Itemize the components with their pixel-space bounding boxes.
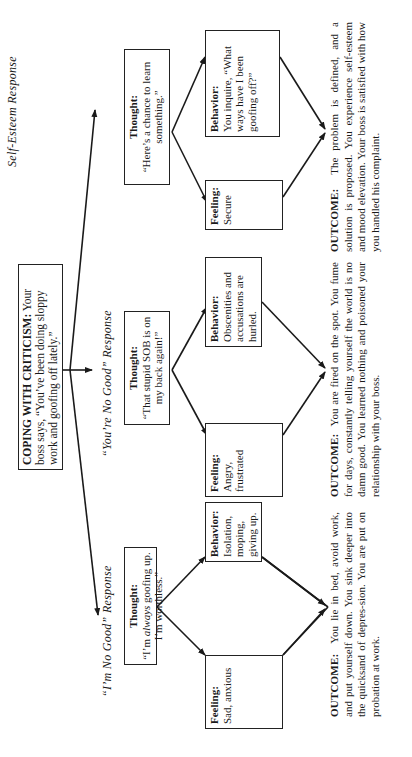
behavior-text: You inquire, “What ways have I been goof… [221, 46, 258, 132]
thought-title: Thought: [127, 584, 139, 628]
outcome-self-esteem: OUTCOME: The problem is defined, and a s… [328, 22, 382, 252]
thought-box-self-esteem: Thought: “Here’s a chance to learn somet… [124, 49, 170, 185]
feeling-title: Feeling: [208, 686, 220, 724]
behavior-text: Obscenities and accusations are hurled. [221, 272, 258, 342]
feeling-box-im-no-good: Feeling: Sad, anxious [205, 655, 283, 729]
thought-title: Thought: [127, 346, 139, 390]
feeling-text: Secure [221, 195, 233, 225]
header-title: COPING WITH CRITICISM: [21, 314, 33, 465]
behavior-title: Behavior: [208, 86, 220, 132]
thought-text: “Here’s a chance to learn something.” [140, 62, 165, 173]
behavior-title: Behavior: [208, 296, 220, 342]
behavior-box-self-esteem: Behavior: You inquire, “What ways have I… [205, 30, 280, 137]
outcome-title: OUTCOME: [328, 434, 340, 497]
thought-box-youre-no-good: Thought: “That stupid SOB is on my back … [124, 311, 170, 425]
thought-text: “That stupid SOB is on my back again!” [140, 317, 165, 420]
header-box: COPING WITH CRITICISM: Your boss says, “… [18, 264, 63, 470]
branch-label-youre-no-good: “You’re No Good” Response [100, 310, 115, 457]
feeling-text: Angry, frustrated [221, 450, 246, 492]
outcome-youre-no-good: OUTCOME: You are fired on the spot. You … [328, 262, 382, 497]
feeling-text: Sad, anxious [221, 668, 233, 724]
thought-text-emphasis: always [140, 606, 152, 637]
branch-label-self-esteem: Self-Esteem Response [5, 56, 20, 167]
thought-title: Thought: [127, 95, 139, 139]
outcome-title: OUTCOME: [328, 189, 340, 252]
behavior-box-youre-no-good: Behavior: Obscenities and accusations ar… [205, 257, 262, 347]
outcome-im-no-good: OUTCOME: You lie in bed, avoid work, and… [328, 512, 382, 717]
branch-label-im-no-good: “I’m No Good” Response [100, 565, 115, 697]
feeling-box-youre-no-good: Feeling: Angry, frustrated [205, 423, 283, 497]
feeling-box-self-esteem: Feeling: Secure [205, 180, 283, 230]
outcome-title: OUTCOME: [328, 654, 340, 717]
coping-with-criticism-diagram: COPING WITH CRITICISM: Your boss says, “… [0, 0, 412, 757]
behavior-title: Behavior: [208, 511, 220, 557]
behavior-text: Isolation, moping, giving up. [221, 512, 258, 557]
feeling-title: Feeling: [208, 187, 220, 225]
thought-box-im-no-good: Thought: “I’m always goofing up. I’m wor… [124, 547, 157, 665]
behavior-box-im-no-good: Behavior: Isolation, moping, giving up. [205, 502, 262, 562]
feeling-title: Feeling: [208, 454, 220, 492]
thought-text-pre: “I’m [140, 636, 152, 660]
